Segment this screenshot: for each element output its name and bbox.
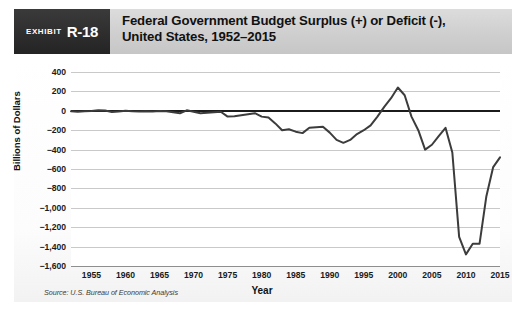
y-axis-label: Billions of Dollars <box>11 91 22 171</box>
x-tick-label: 1955 <box>82 270 101 280</box>
x-tick-label: 2010 <box>456 270 475 280</box>
y-tick-label: −1,600 <box>39 261 66 271</box>
data-series-line <box>71 72 500 266</box>
exhibit-figure: Exhibit R-18 Federal Government Budget S… <box>0 0 524 315</box>
x-tick-label: 1990 <box>320 270 339 280</box>
x-tick-label: 1960 <box>116 270 135 280</box>
series-polyline <box>71 88 500 255</box>
x-tick-label: 1975 <box>218 270 237 280</box>
y-tick-label: 400 <box>52 67 66 77</box>
plot-area: 4002000−200−400−600−800−1,000−1,200−1,40… <box>71 72 500 266</box>
source-note: Source: U.S. Bureau of Economic Analysis <box>44 288 178 297</box>
y-tick-label: −200 <box>47 125 66 135</box>
y-tick-label: −1,400 <box>39 242 66 252</box>
y-tick-label: −600 <box>47 164 66 174</box>
y-tick-label: −400 <box>47 145 66 155</box>
x-axis-line <box>71 266 500 267</box>
exhibit-number-label: R-18 <box>67 23 98 40</box>
x-tick-label: 2005 <box>422 270 441 280</box>
y-tick-label: 200 <box>52 86 66 96</box>
page-title: Federal Government Budget Surplus (+) or… <box>122 13 504 45</box>
y-tick-label: −800 <box>47 183 66 193</box>
x-tick-label: 1980 <box>252 270 271 280</box>
exhibit-badge: Exhibit R-18 <box>14 9 110 54</box>
x-tick-label: 2015 <box>490 270 509 280</box>
y-tick-label: −1,200 <box>39 222 66 232</box>
y-tick-label: 0 <box>61 106 66 116</box>
y-tick-label: −1,000 <box>39 203 66 213</box>
title-line-2: United States, 1952–2015 <box>122 29 504 45</box>
x-tick-label: 1995 <box>354 270 373 280</box>
x-tick-label: 2000 <box>388 270 407 280</box>
x-tick-label: 1965 <box>150 270 169 280</box>
exhibit-word-label: Exhibit <box>26 27 62 36</box>
x-tick-label: 1985 <box>286 270 305 280</box>
x-tick-label: 1970 <box>184 270 203 280</box>
title-line-1: Federal Government Budget Surplus (+) or… <box>122 13 504 29</box>
